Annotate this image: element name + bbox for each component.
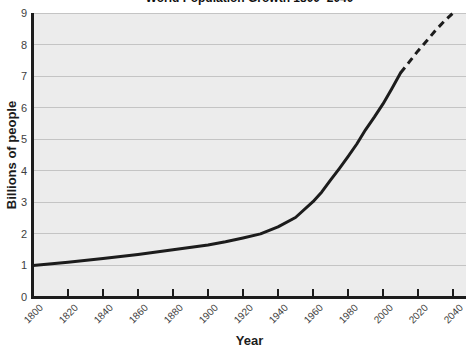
x-tick-label: 1900 xyxy=(196,302,220,326)
x-tick-label: 1980 xyxy=(336,302,360,326)
x-tick-label: 1860 xyxy=(126,302,150,326)
x-tick-label: 1940 xyxy=(266,302,290,326)
y-tick-label: 8 xyxy=(0,39,27,51)
x-tick-label: 1840 xyxy=(91,302,115,326)
y-axis-title: Billions of people xyxy=(4,101,19,209)
x-tick-label: 1800 xyxy=(21,302,45,326)
world-population-growth-chart: World Population Growth 1800–2040 012345… xyxy=(0,0,473,358)
chart-title-cropped: World Population Growth 1800–2040 xyxy=(33,0,466,6)
y-tick-label: 1 xyxy=(0,259,27,271)
x-axis-title: Year xyxy=(33,333,466,348)
x-tick-label: 2000 xyxy=(371,302,395,326)
series-world-population-projected xyxy=(401,13,454,73)
chart-title: World Population Growth 1800–2040 xyxy=(33,0,466,5)
x-tick-label: 2040 xyxy=(441,302,465,326)
x-tick-label: 1920 xyxy=(231,302,255,326)
y-tick-label: 0 xyxy=(0,291,27,303)
population-curve xyxy=(33,13,466,297)
x-tick-label: 2020 xyxy=(406,302,430,326)
x-tick-label: 1820 xyxy=(56,302,80,326)
x-tick-label: 1960 xyxy=(301,302,325,326)
y-tick-label: 2 xyxy=(0,228,27,240)
y-tick-label: 9 xyxy=(0,7,27,19)
y-tick-label: 7 xyxy=(0,70,27,82)
x-tick-label: 1880 xyxy=(161,302,185,326)
series-world-population xyxy=(33,73,401,265)
